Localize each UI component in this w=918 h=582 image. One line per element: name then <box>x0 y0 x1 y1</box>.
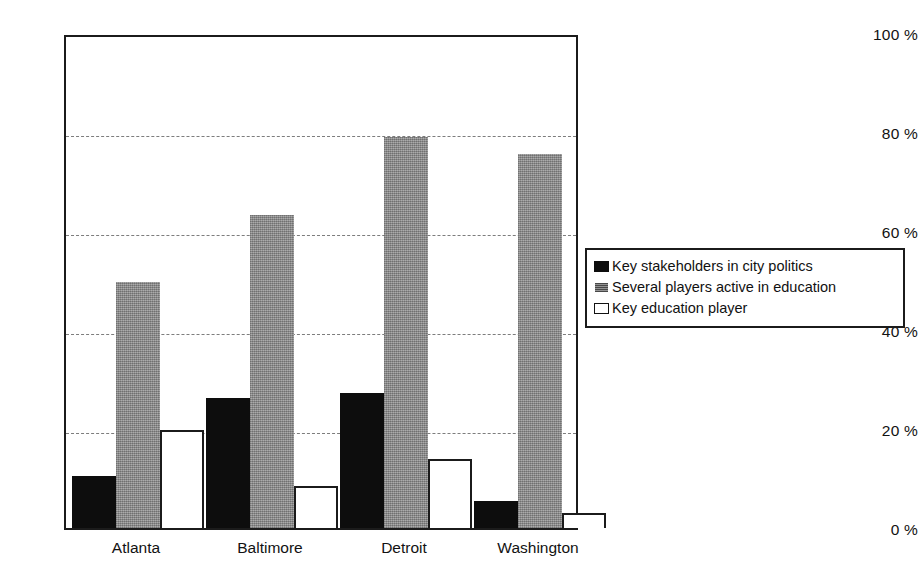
bar <box>428 459 472 528</box>
bar <box>384 137 428 528</box>
black-filled-swatch <box>594 261 609 272</box>
legend-item: Several players active in education <box>594 277 897 298</box>
x-axis-tick-label: Baltimore <box>204 540 336 556</box>
legend-item-label: Key stakeholders in city politics <box>612 259 813 274</box>
bar <box>72 476 116 528</box>
bar <box>116 282 160 529</box>
legend-item: Key education player <box>594 298 897 319</box>
bar-chart: 100 %80 %60 %40 %20 %0 % AtlantaBaltimor… <box>0 0 918 582</box>
chart-legend: Key stakeholders in city politicsSeveral… <box>585 248 905 328</box>
bar <box>206 398 250 528</box>
bar <box>250 215 294 528</box>
y-axis-tick-label: 100 % <box>862 27 918 43</box>
y-axis-tick-label: 80 % <box>862 126 918 142</box>
plot-area <box>64 35 578 530</box>
gridline <box>66 136 576 137</box>
bar <box>518 154 562 528</box>
x-axis-tick-label: Detroit <box>338 540 470 556</box>
white-outlined-swatch <box>594 303 609 314</box>
bar <box>160 430 204 528</box>
gridline <box>66 235 576 236</box>
x-axis-tick-label: Washington <box>472 540 604 556</box>
bar <box>340 393 384 528</box>
bar <box>562 513 606 528</box>
gray-hatched-swatch <box>595 283 608 292</box>
y-axis-tick-label: 0 % <box>862 522 918 538</box>
y-axis-tick-label: 60 % <box>862 225 918 241</box>
legend-item-label: Several players active in education <box>612 280 836 295</box>
legend-item-label: Key education player <box>612 301 747 316</box>
bar <box>294 486 338 528</box>
y-axis-tick-label: 20 % <box>862 423 918 439</box>
bar <box>474 501 518 528</box>
legend-item: Key stakeholders in city politics <box>594 256 897 277</box>
x-axis-tick-label: Atlanta <box>70 540 202 556</box>
